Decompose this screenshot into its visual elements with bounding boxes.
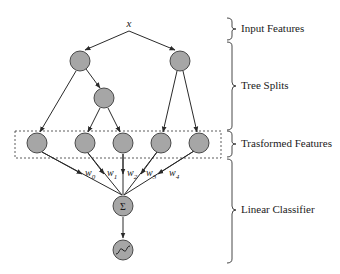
section-label-transformed-features: Trasformed Features	[241, 137, 332, 149]
leaf-node	[189, 133, 209, 153]
tree-node	[94, 88, 114, 108]
tree-node	[70, 51, 90, 71]
leaf-node	[151, 133, 171, 153]
weight-label-w4: w4	[169, 167, 179, 181]
weight-label-w2: w2	[127, 167, 137, 181]
section-label-tree-splits: Tree Splits	[241, 79, 289, 91]
weight-edges	[42, 151, 194, 238]
section-label-linear-classifier: Linear Classifier	[241, 203, 315, 215]
weight-label-w3: w3	[146, 167, 156, 181]
leaf-node	[27, 133, 47, 153]
tree-edges	[40, 31, 197, 132]
leaf-node	[113, 133, 133, 153]
leaf-node	[75, 133, 95, 153]
section-label-input-features: Input Features	[241, 22, 304, 34]
weight-label-w0: w0	[85, 167, 95, 181]
weight-label-w1: w1	[107, 167, 117, 181]
transformed-feature-nodes	[27, 133, 209, 153]
sigma-icon: Σ	[120, 201, 126, 212]
tree-node	[170, 51, 190, 71]
tree-split-nodes	[70, 51, 190, 108]
input-x-label: x	[126, 17, 132, 29]
section-braces	[227, 18, 236, 263]
